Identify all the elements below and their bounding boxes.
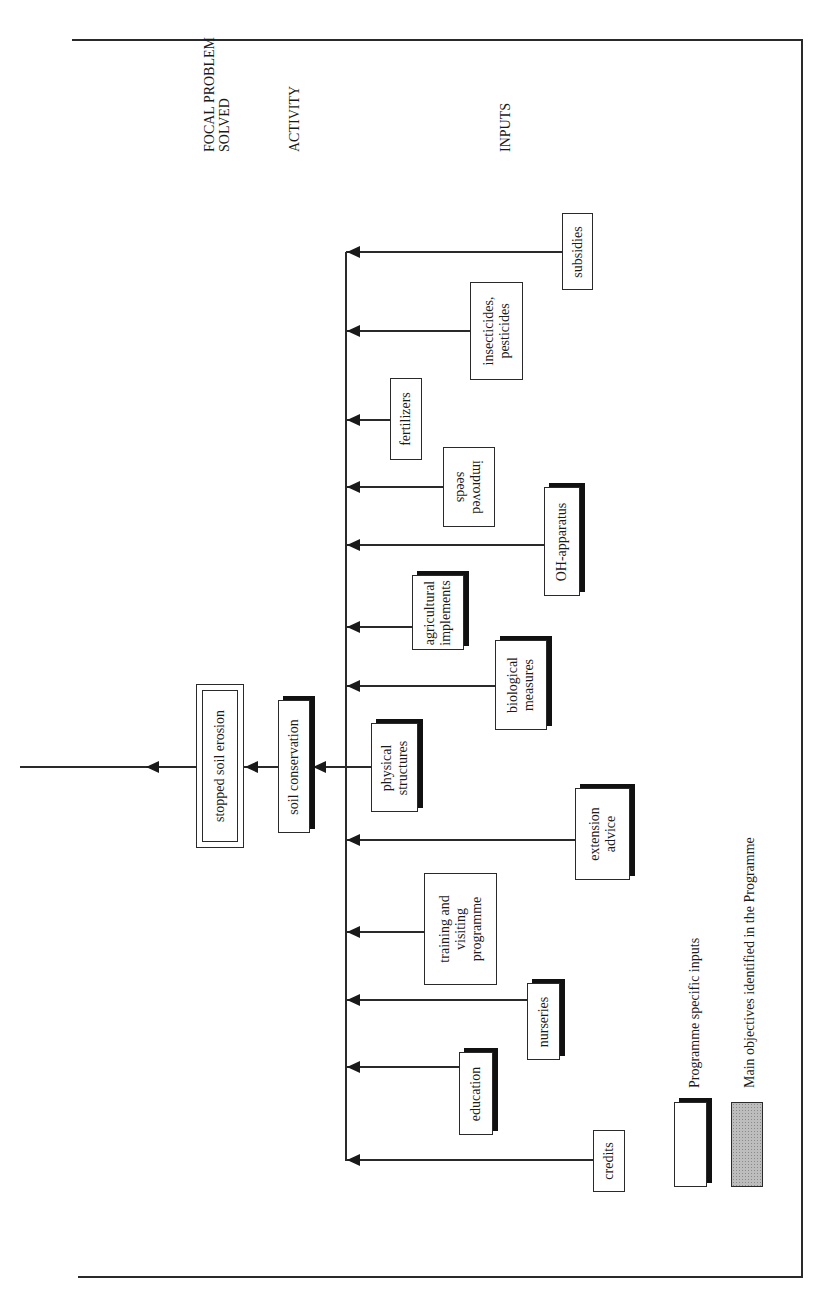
frame-top-line: [72, 39, 802, 41]
focal-problem-inner-border: stopped soil erosion: [202, 690, 238, 842]
legend-label-main-objectives: Main objectives identified in the Progra…: [742, 837, 758, 1088]
label-line: visiting: [453, 895, 469, 962]
arrow-to-output: [146, 761, 159, 773]
arrow-subsidies: [347, 246, 360, 258]
activity-label: soil conservation: [286, 719, 302, 814]
input-box-nurseries: nurseries: [527, 983, 560, 1060]
arrow-education: [347, 1061, 360, 1073]
arrow-improved-seeds: [347, 481, 360, 493]
input-label-subsidies: subsidies: [570, 226, 586, 277]
input-box-training: training and visiting programme: [424, 873, 497, 985]
frame-bottom-line: [78, 1276, 803, 1278]
connector-credits: [346, 1159, 593, 1161]
input-box-fertilizers: fertilizers: [390, 378, 422, 460]
input-label-fertilizers: fertilizers: [398, 392, 414, 446]
input-box-extension-advice: extension advice: [575, 788, 630, 880]
arrow-agricultural-implements: [347, 621, 360, 633]
arrow-oh-apparatus: [347, 539, 360, 551]
inputs-bus: [345, 252, 347, 1161]
label-line: improved: [469, 460, 485, 514]
heading-activity: ACTIVITY: [287, 86, 302, 152]
heading-focal-line2: SOLVED: [217, 37, 232, 152]
legend-swatch-main-objectives: [731, 1102, 763, 1187]
input-label-physical-structures: physical structures: [379, 740, 411, 794]
input-box-physical-structures: physical structures: [371, 723, 418, 812]
frame-right-line: [801, 39, 803, 1277]
label-line: training and: [437, 895, 453, 962]
label-line: physical: [379, 740, 395, 794]
heading-inputs: INPUTS: [498, 103, 513, 152]
input-label-training: training and visiting programme: [437, 895, 485, 962]
arrow-to-focal-problem: [245, 761, 258, 773]
label-line: fertilizers: [398, 392, 414, 446]
input-label-improved-seeds: improved seeds: [453, 460, 485, 514]
arrow-training: [347, 926, 360, 938]
input-box-insecticides: insecticides, pesticides: [470, 282, 523, 380]
activity-box: soil conservation: [278, 700, 310, 833]
connector-nurseries: [346, 999, 527, 1001]
label-line: OH-apparatus: [554, 502, 570, 581]
label-line: nurseries: [536, 996, 552, 1047]
input-label-education: education: [468, 1066, 484, 1120]
legend-swatch-programme-specific: [674, 1102, 707, 1187]
label-line: subsidies: [570, 226, 586, 277]
input-label-nurseries: nurseries: [536, 996, 552, 1047]
label-line: biological: [505, 657, 521, 713]
label-line: pesticides: [497, 297, 513, 366]
label-line: extension: [587, 807, 603, 861]
focal-problem-box: stopped soil erosion: [196, 684, 244, 848]
arrow-nurseries: [347, 994, 360, 1006]
input-box-credits: credits: [593, 1130, 625, 1192]
input-box-improved-seeds: improved seeds: [443, 447, 495, 527]
connector-insecticides: [346, 330, 470, 332]
connector-physical-structures: [346, 766, 371, 768]
input-label-oh-apparatus: OH-apparatus: [554, 502, 570, 581]
connector-education: [346, 1066, 459, 1068]
heading-focal-problem: FOCAL PROBLEM SOLVED: [202, 37, 232, 152]
label-line: implements: [438, 580, 454, 645]
input-label-insecticides: insecticides, pesticides: [481, 297, 513, 366]
label-line: agricultural: [422, 580, 438, 645]
label-line: seeds: [453, 460, 469, 514]
input-box-biological-measures: biological measures: [495, 640, 547, 730]
arrow-to-activity: [313, 761, 326, 773]
input-box-education: education: [459, 1052, 493, 1135]
output-line: [20, 766, 196, 768]
label-line: programme: [469, 895, 485, 962]
connector-improved-seeds: [346, 486, 443, 488]
connector-biological-measures: [346, 685, 495, 687]
connector-subsidies: [346, 251, 562, 253]
legend-label-programme-specific: Programme specific inputs: [687, 938, 703, 1088]
input-label-extension-advice: extension advice: [587, 807, 619, 861]
input-box-subsidies: subsidies: [562, 213, 593, 290]
connector-extension-advice: [346, 839, 575, 841]
label-line: structures: [395, 740, 411, 794]
label-line: measures: [521, 657, 537, 713]
arrow-biological-measures: [347, 680, 360, 692]
arrow-insecticides: [347, 325, 360, 337]
arrow-fertilizers: [347, 414, 360, 426]
label-line: insecticides,: [481, 297, 497, 366]
label-line: advice: [603, 807, 619, 861]
arrow-credits: [347, 1154, 360, 1166]
input-box-oh-apparatus: OH-apparatus: [544, 487, 580, 596]
input-label-agricultural-implements: agricultural implements: [422, 580, 454, 645]
input-label-biological-measures: biological measures: [505, 657, 537, 713]
label-line: credits: [601, 1142, 617, 1179]
input-box-agricultural-implements: agricultural implements: [412, 575, 464, 650]
heading-focal-line1: FOCAL PROBLEM: [202, 37, 217, 152]
focal-problem-label: stopped soil erosion: [212, 710, 228, 822]
connector-oh-apparatus: [346, 544, 544, 546]
label-line: education: [468, 1066, 484, 1120]
arrow-extension-advice: [347, 834, 360, 846]
input-label-credits: credits: [601, 1142, 617, 1179]
